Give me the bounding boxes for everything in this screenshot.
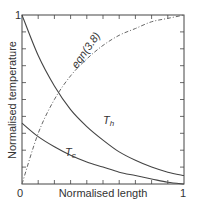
x-min-label: 0 (17, 187, 23, 199)
curve-tc (22, 123, 184, 184)
tc-label: Tc (65, 146, 76, 160)
x-max-label: 1 (180, 187, 186, 199)
x-axis-title: Normalised length (59, 187, 148, 199)
curve-eqn-3-8 (22, 15, 184, 184)
th-label: Th (103, 114, 115, 128)
chart-svg: 1 0 1 Normalised length Normalised tempe… (0, 0, 198, 209)
axis-ticks (22, 15, 184, 184)
y-axis-title: Normalised temperature (6, 41, 18, 159)
plot-frame (22, 15, 184, 184)
curve-th (22, 15, 184, 176)
y-max-label: 1 (15, 9, 21, 21)
